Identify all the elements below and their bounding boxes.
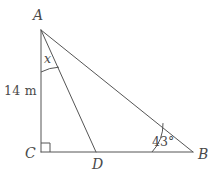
angle-label-x: x (44, 53, 51, 66)
angle-arc-A (41, 67, 59, 72)
side-length-label-ac: 14 m (4, 85, 37, 98)
vertex-label-d: D (92, 157, 103, 171)
segment-AD (41, 30, 96, 152)
vertex-label-b: B (198, 147, 208, 161)
right-angle-marker-C (41, 143, 50, 152)
vertex-label-c: C (25, 146, 36, 160)
vertex-label-a: A (33, 8, 43, 22)
angle-label-43-degrees: 43° (152, 136, 174, 149)
geometry-diagram: A C D B 14 m x 43° (0, 0, 219, 174)
